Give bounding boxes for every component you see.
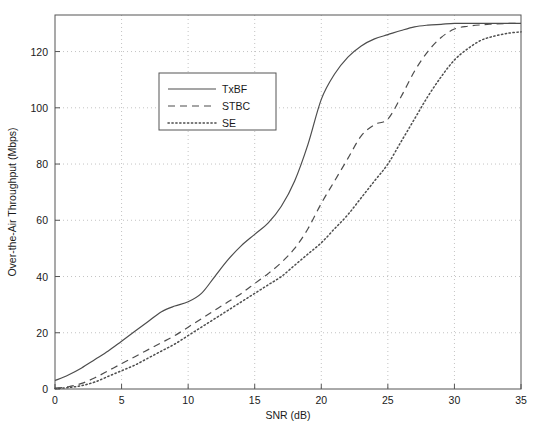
y-tick-label: 100 bbox=[30, 102, 48, 114]
x-tick-label: 20 bbox=[315, 394, 327, 406]
legend-label-se: SE bbox=[222, 117, 236, 129]
legend: TxBFSTBCSE bbox=[159, 73, 276, 130]
x-tick-label: 10 bbox=[182, 394, 194, 406]
x-axis-title: SNR (dB) bbox=[266, 409, 311, 421]
x-tick-label: 5 bbox=[119, 394, 125, 406]
y-axis-title: Over-the-Air Throughput (Mbps) bbox=[6, 127, 18, 276]
y-tick-label: 80 bbox=[36, 158, 48, 170]
x-tick-label: 30 bbox=[449, 394, 461, 406]
y-tick-label: 20 bbox=[36, 327, 48, 339]
figure-container: 05101520253035020406080100120 SNR (dB) O… bbox=[0, 0, 539, 432]
x-tick-label: 25 bbox=[382, 394, 394, 406]
y-tick-label: 40 bbox=[36, 271, 48, 283]
chart-canvas: 05101520253035020406080100120 SNR (dB) O… bbox=[0, 0, 539, 432]
x-tick-label: 35 bbox=[515, 394, 527, 406]
y-tick-label: 60 bbox=[36, 214, 48, 226]
x-tick-label: 15 bbox=[249, 394, 261, 406]
x-tick-label: 0 bbox=[52, 394, 58, 406]
y-tick-label: 120 bbox=[30, 46, 48, 58]
legend-label-txbf: TxBF bbox=[222, 83, 247, 95]
y-tick-label: 0 bbox=[42, 383, 48, 395]
legend-label-stbc: STBC bbox=[222, 100, 250, 112]
